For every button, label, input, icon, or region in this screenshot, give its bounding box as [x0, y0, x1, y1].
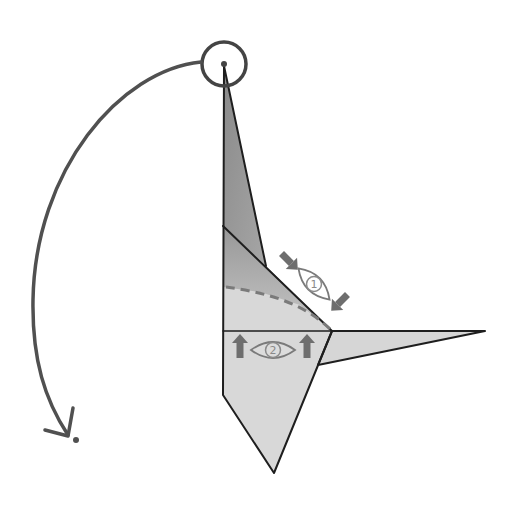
- view-number-2: 2: [270, 344, 277, 357]
- paper-body: [223, 66, 485, 473]
- arrow-inward-lower-icon: [326, 289, 354, 317]
- paper-right-flap: [318, 331, 485, 365]
- top-point-dot: [221, 61, 227, 67]
- arrow-end-dot: [73, 437, 79, 443]
- origami-diagram: 1 2: [0, 0, 513, 508]
- view-number-1: 1: [311, 278, 318, 291]
- curved-arrow-icon: [33, 62, 201, 435]
- rotation-arrow: [33, 62, 201, 443]
